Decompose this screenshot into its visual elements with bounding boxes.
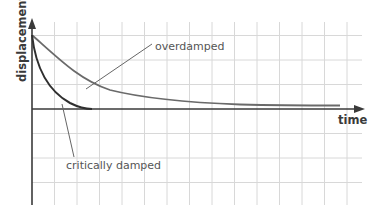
y-axis-label: displacement — [15, 0, 29, 82]
overdamped-label: overdamped — [155, 40, 225, 53]
critically-damped-curve — [32, 35, 92, 109]
x-axis-arrow-icon — [354, 105, 365, 113]
critically-damped-label: critically damped — [66, 159, 161, 172]
x-axis-label: time — [338, 113, 367, 127]
y-axis-arrow-icon — [28, 18, 36, 29]
overdamped-pointer — [86, 44, 152, 89]
damping-diagram: overdamped critically damped time displa… — [0, 0, 374, 213]
critically-damped-pointer — [62, 104, 74, 157]
